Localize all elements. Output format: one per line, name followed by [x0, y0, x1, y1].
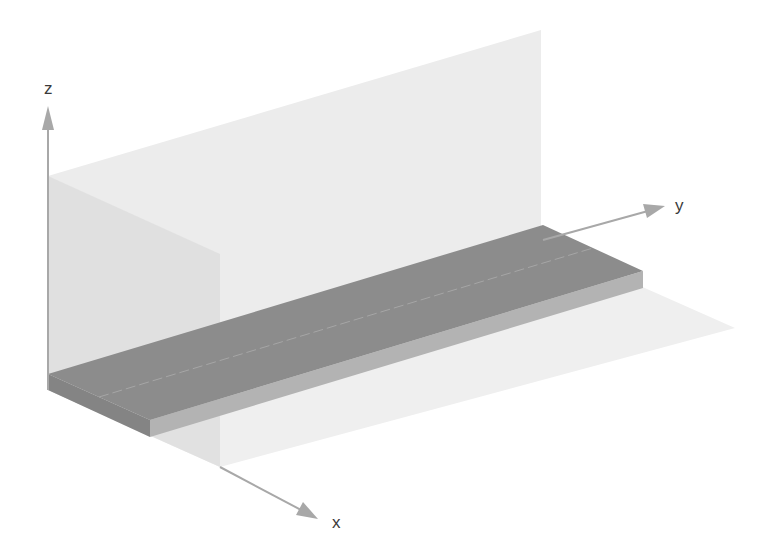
y-arrowhead-icon — [643, 204, 665, 218]
x-axis-label: x — [332, 513, 341, 532]
y-axis-label: y — [675, 196, 684, 215]
3d-axes-diagram: z y x — [0, 0, 775, 558]
x-arrowhead-icon — [296, 502, 318, 519]
y-axis: y — [543, 196, 684, 240]
z-axis-label: z — [44, 79, 53, 98]
z-arrowhead-icon — [42, 106, 54, 130]
x-axis: x — [220, 467, 341, 532]
